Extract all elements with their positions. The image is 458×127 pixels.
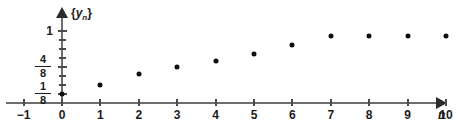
x-axis-tick [330,99,332,106]
data-point [290,43,294,47]
x-axis-tick [99,99,101,106]
fraction-denominator: 8 [32,95,54,106]
data-point [214,59,218,63]
x-axis-tick [445,99,447,106]
data-point [60,92,64,96]
data-point [406,34,410,38]
y-axis-tick [58,30,67,32]
x-axis-tick-label: 5 [242,108,266,122]
y-axis-tick [59,39,66,41]
x-axis-tick-label: 8 [357,108,381,122]
x-axis-tick-label: 3 [165,108,189,122]
x-axis-tick-label: 4 [204,108,228,122]
y-axis-tick-label-fraction: 18 [32,81,54,106]
y-axis-tick-label: 1 [33,25,53,37]
y-axis-label: {yn} [71,6,92,25]
y-axis-label-close: } [87,6,92,20]
data-point [444,34,448,38]
x-axis-tick-label: 6 [280,108,304,122]
x-axis-tick-label: 9 [396,108,420,122]
x-axis-tick [407,99,409,106]
fraction-numerator: 1 [32,81,54,92]
x-axis-tick-label: 1 [88,108,112,122]
data-point [329,34,333,38]
x-axis-tick-label: −1 [12,108,36,122]
x-axis-tick [176,99,178,106]
y-axis-tick [59,48,66,50]
sequence-scatter-chart: {yn} n −101234567891014818 [0,0,458,127]
y-axis-tick-label-fraction: 48 [32,54,54,79]
x-axis-tick [23,99,25,106]
data-point [137,72,141,76]
data-point [98,83,102,87]
y-axis-tick [58,66,67,68]
x-axis-tick [368,99,370,106]
y-axis-tick [59,75,66,77]
x-axis-tick [253,99,255,106]
x-axis-tick-label: 7 [319,108,343,122]
x-axis-tick [291,99,293,106]
y-axis-arrow-icon [56,7,68,18]
fraction-numerator: 4 [32,54,54,65]
data-point [367,34,371,38]
fraction-denominator: 8 [32,68,54,79]
x-axis-line [6,102,438,104]
y-axis-tick [59,57,66,59]
x-axis-tick [61,99,63,106]
x-axis-tick-label: 2 [127,108,151,122]
y-axis-tick [59,84,66,86]
x-axis-tick-label: 0 [50,108,74,122]
x-axis-tick [138,99,140,106]
data-point [175,65,179,69]
data-point [252,52,256,56]
x-axis-tick-label: 10 [434,108,458,122]
x-axis-tick [215,99,217,106]
